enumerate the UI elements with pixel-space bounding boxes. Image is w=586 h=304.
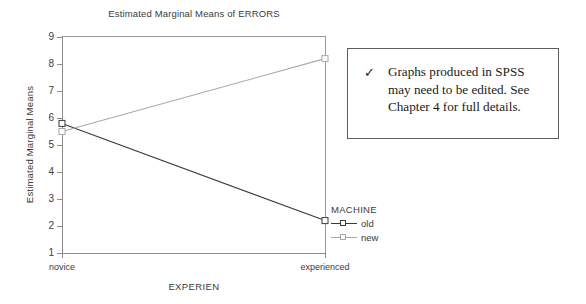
x-axis-title: EXPERIEN	[62, 281, 326, 292]
data-point-marker-old	[59, 120, 65, 126]
data-point-marker-old	[322, 218, 328, 224]
callout-note-box: ✓ Graphs produced in SPSS may need to be…	[347, 48, 559, 139]
check-icon: ✓	[364, 66, 375, 80]
legend-swatch-new-icon	[331, 232, 357, 242]
series-line-new	[62, 59, 325, 132]
page-root: Estimated Marginal Means of ERRORS 98765…	[0, 0, 586, 304]
chart-series-layer	[0, 0, 340, 304]
legend-title: MACHINE	[331, 203, 401, 216]
legend-item-new[interactable]: new	[331, 230, 401, 244]
y-axis-title: Estimated Marginal Means	[24, 50, 35, 240]
legend-swatch-old-icon	[331, 218, 357, 228]
legend-label-new: new	[361, 232, 378, 243]
callout-note-text: Graphs produced in SPSS may need to be e…	[388, 63, 548, 116]
legend-label-old: old	[361, 218, 374, 229]
chart-legend: MACHINE old new	[331, 203, 401, 244]
data-point-marker-new	[59, 129, 65, 135]
chart-figure: Estimated Marginal Means of ERRORS 98765…	[0, 0, 340, 304]
legend-item-old[interactable]: old	[331, 216, 401, 230]
series-line-old	[62, 123, 325, 220]
data-point-marker-new	[322, 56, 328, 62]
